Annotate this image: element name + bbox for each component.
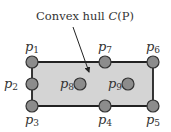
point-p1	[26, 56, 38, 68]
point-p2	[26, 78, 38, 90]
point-label-p7: p7	[98, 39, 112, 55]
point-p4	[99, 100, 111, 112]
point-label-p4: p4	[98, 112, 112, 128]
point-label-p6: p6	[146, 39, 160, 55]
convex-hull-diagram: Convex hull C(P) p1p2p3p4p5p6p7p8p9	[0, 0, 171, 132]
point-label-p2: p2	[4, 76, 18, 92]
point-label-p1: p1	[25, 39, 39, 55]
convex-hull-polygon	[32, 62, 153, 106]
point-p5	[147, 100, 159, 112]
point-label-p3: p3	[25, 112, 39, 128]
point-p6	[147, 56, 159, 68]
annotation-label: Convex hull C(P)	[36, 9, 134, 23]
point-p3	[26, 100, 38, 112]
point-p7	[99, 56, 111, 68]
point-p8	[74, 78, 86, 90]
point-p9	[122, 78, 134, 90]
point-label-p5: p5	[146, 112, 160, 128]
